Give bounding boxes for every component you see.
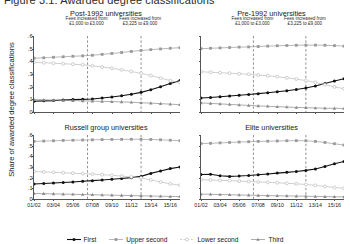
y-tick-mark bbox=[199, 99, 201, 100]
y-tick-mark bbox=[199, 188, 201, 189]
x-tick-mark bbox=[170, 112, 171, 114]
plot-area bbox=[200, 36, 344, 112]
y-tick-label: .5 bbox=[21, 46, 33, 52]
y-tick-label: .4 bbox=[21, 58, 33, 64]
x-tick-label: 15/16 bbox=[159, 202, 181, 208]
y-tick-mark bbox=[32, 188, 34, 189]
y-tick-label: .6 bbox=[21, 33, 33, 39]
series-line bbox=[201, 161, 344, 176]
panel-elite-universities: Elite universities01/0203/0405/0607/0809… bbox=[200, 135, 343, 199]
y-axis-label: Share of awarded degree classifications bbox=[7, 15, 16, 205]
y-tick-mark bbox=[32, 49, 34, 50]
figure-title: Figure 3.1: Awarded degree classificatio… bbox=[4, 0, 215, 6]
y-tick-label: .1 bbox=[21, 96, 33, 102]
series-line bbox=[201, 45, 344, 49]
x-axis-line bbox=[34, 199, 180, 200]
y-tick-mark bbox=[199, 74, 201, 75]
y-tick-mark bbox=[32, 36, 34, 37]
y-tick-mark bbox=[32, 99, 34, 100]
y-tick-label: .4 bbox=[21, 153, 33, 159]
legend-item-third[interactable]: Third bbox=[251, 236, 283, 243]
legend-marker-filled-triangle-icon bbox=[251, 236, 265, 243]
y-tick-mark bbox=[199, 178, 201, 179]
x-tick-mark bbox=[315, 112, 316, 114]
fee-annotation-2: Fees increased from£3,225 to £9,000 bbox=[273, 16, 337, 27]
series-line bbox=[201, 141, 344, 145]
y-tick-mark bbox=[199, 61, 201, 62]
series-line bbox=[34, 100, 180, 105]
legend-label: Lower second bbox=[197, 236, 238, 243]
y-tick-label: .6 bbox=[21, 132, 33, 138]
x-tick-mark bbox=[296, 112, 297, 114]
y-tick-label: .5 bbox=[21, 143, 33, 149]
series-line bbox=[201, 103, 344, 109]
y-tick-mark bbox=[199, 49, 201, 50]
chart-legend: FirstUpper secondLower secondThird bbox=[0, 236, 350, 243]
fee-annotation-line-2: £3,225 to £9,000 bbox=[108, 21, 172, 26]
x-tick-mark bbox=[239, 112, 240, 114]
legend-item-lower-second[interactable]: Lower second bbox=[180, 236, 238, 243]
panel-post-1992-universities: Post-1992 universitiesFees increased fro… bbox=[33, 36, 179, 112]
legend-item-upper-second[interactable]: Upper second bbox=[109, 236, 167, 243]
panel-title: Russell group universities bbox=[33, 123, 179, 132]
x-axis-line bbox=[201, 199, 344, 200]
y-tick-label: .2 bbox=[21, 84, 33, 90]
x-tick-mark bbox=[131, 112, 132, 114]
x-tick-mark bbox=[151, 112, 152, 114]
y-tick-mark bbox=[32, 156, 34, 157]
x-axis-line bbox=[34, 112, 180, 113]
panel-title: Elite universities bbox=[200, 123, 343, 132]
legend-marker-filled-square-icon bbox=[109, 236, 123, 243]
y-tick-label: 0 bbox=[21, 109, 33, 115]
y-tick-mark bbox=[199, 156, 201, 157]
fee-annotation-line-2: £3,225 to £9,000 bbox=[273, 21, 337, 26]
y-tick-mark bbox=[32, 178, 34, 179]
y-tick-mark bbox=[199, 87, 201, 88]
x-tick-mark bbox=[201, 112, 202, 114]
y-tick-mark bbox=[32, 135, 34, 136]
x-tick-label: 15/16 bbox=[323, 202, 345, 208]
y-tick-mark bbox=[32, 61, 34, 62]
plot-area: 0.1.2.3.4.5.6 bbox=[33, 36, 180, 112]
series-canvas bbox=[201, 36, 344, 112]
series-line bbox=[34, 62, 180, 82]
y-tick-mark bbox=[32, 87, 34, 88]
y-tick-label: .2 bbox=[21, 175, 33, 181]
x-tick-mark bbox=[334, 112, 335, 114]
x-tick-mark bbox=[92, 112, 93, 114]
y-tick-mark bbox=[32, 167, 34, 168]
x-axis-line bbox=[201, 112, 344, 113]
legend-marker-open-circle-icon bbox=[180, 236, 194, 243]
y-tick-label: .3 bbox=[21, 71, 33, 77]
plot-area: 01/0203/0405/0607/0809/1011/1213/1415/16 bbox=[200, 135, 344, 199]
series-line bbox=[201, 194, 344, 197]
x-tick-mark bbox=[53, 112, 54, 114]
x-tick-mark bbox=[73, 112, 74, 114]
y-tick-label: .1 bbox=[21, 185, 33, 191]
series-canvas bbox=[34, 135, 180, 199]
legend-label: Third bbox=[268, 236, 283, 243]
y-tick-mark bbox=[32, 146, 34, 147]
x-tick-mark bbox=[112, 112, 113, 114]
y-tick-mark bbox=[199, 36, 201, 37]
x-tick-mark bbox=[277, 112, 278, 114]
y-tick-mark bbox=[199, 146, 201, 147]
plot-area: 0.1.2.3.4.5.601/0203/0405/0607/0809/1011… bbox=[33, 135, 180, 199]
panel-russell-group-universities: Russell group universities0.1.2.3.4.5.60… bbox=[33, 135, 179, 199]
x-tick-mark bbox=[220, 112, 221, 114]
series-line bbox=[34, 193, 180, 196]
series-line bbox=[34, 81, 180, 102]
legend-label: Upper second bbox=[126, 236, 167, 243]
panel-pre-1992-universities: Pre-1992 universitiesFees increased from… bbox=[200, 36, 343, 112]
legend-item-first[interactable]: First bbox=[67, 236, 97, 243]
x-tick-mark bbox=[34, 112, 35, 114]
y-tick-mark bbox=[32, 74, 34, 75]
y-tick-mark bbox=[199, 135, 201, 136]
series-line bbox=[34, 48, 180, 59]
series-line bbox=[201, 180, 344, 189]
x-tick-mark bbox=[258, 112, 259, 114]
y-tick-mark bbox=[199, 167, 201, 168]
series-canvas bbox=[34, 36, 180, 112]
y-tick-label: .3 bbox=[21, 164, 33, 170]
series-line bbox=[201, 79, 344, 98]
